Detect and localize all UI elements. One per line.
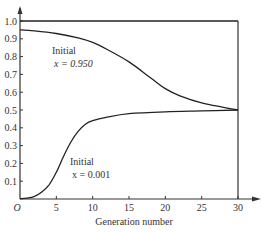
y-tick-label: 0.7	[5, 69, 18, 80]
x-tick-label: 20	[160, 202, 170, 213]
x-tick-label: 30	[233, 202, 243, 213]
y-tick-label: 0.4	[5, 122, 18, 133]
annotation-upper-1: Initial	[52, 45, 76, 56]
y-tick-label: 1.0	[5, 16, 18, 27]
y-tick-label: 0.6	[5, 87, 18, 98]
x-tick-label: 15	[124, 202, 134, 213]
y-tick-label: 0.2	[5, 158, 18, 169]
x-tick-label: 5	[54, 202, 59, 213]
annotation-upper-2: x = 0.950	[53, 58, 93, 69]
axes: 0.10.20.30.40.50.60.70.80.91.0O510152025…	[5, 6, 262, 213]
y-tick-label: 0.3	[5, 140, 18, 151]
annotation-lower-2: x = 0.001	[72, 169, 110, 180]
y-tick-label: 0.9	[5, 33, 18, 44]
x-axis-arrow-icon	[252, 197, 261, 202]
y-tick-label: 0.8	[5, 51, 18, 62]
series-line-1	[20, 110, 238, 199]
y-tick-label: 0.5	[5, 105, 18, 116]
annotation-lower-1: Initial	[70, 156, 94, 167]
y-axis-arrow-icon	[18, 6, 23, 14]
chart: 0.10.20.30.40.50.60.70.80.91.0O510152025…	[0, 0, 263, 232]
y-tick-label: 0.1	[5, 176, 18, 187]
series-line-0	[20, 30, 238, 110]
x-tick-label: 10	[88, 202, 98, 213]
x-tick-label: 25	[197, 202, 207, 213]
x-tick-label: O	[13, 202, 20, 213]
x-axis-label: Generation number	[95, 216, 173, 227]
